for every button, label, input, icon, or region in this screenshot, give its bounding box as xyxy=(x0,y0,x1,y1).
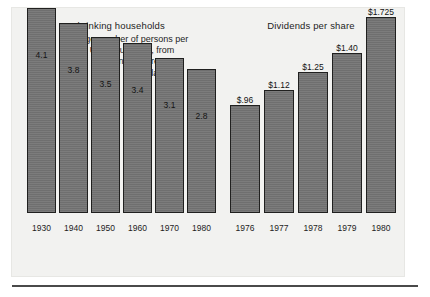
tick-label-households-5: 1980 xyxy=(182,223,221,233)
bar-households-4 xyxy=(155,58,184,213)
chart-dividends-per-share: Dividends per share $.96 1976 $1.12 1977… xyxy=(218,8,404,276)
bar-value-dividends-2: $1.25 xyxy=(293,62,333,72)
bar-households-0 xyxy=(27,8,56,213)
bar-value-households-5: 2.8 xyxy=(187,111,216,121)
bar-value-households-1: 3.8 xyxy=(59,65,88,75)
bar-value-dividends-0: $.96 xyxy=(225,95,265,105)
bar-households-5 xyxy=(187,69,216,213)
bar-dividends-3 xyxy=(332,53,362,213)
bar-value-households-3: 3.4 xyxy=(123,85,152,95)
chart-shrinking-households: Shrinking households Average number of p… xyxy=(20,8,216,276)
plot-area-dividends: $.96 1976 $1.12 1977 $1.25 1978 $1.40 19… xyxy=(218,8,404,255)
bar-value-dividends-4: $1.725 xyxy=(359,7,403,17)
bar-households-1 xyxy=(59,23,88,213)
bottom-rule-divider xyxy=(12,285,418,287)
bar-value-households-4: 3.1 xyxy=(155,100,184,110)
bar-dividends-0 xyxy=(230,105,260,213)
bar-dividends-4 xyxy=(366,17,396,213)
bar-households-2 xyxy=(91,37,120,213)
figure-panel: Shrinking households Average number of p… xyxy=(12,8,404,276)
bar-households-3 xyxy=(123,43,152,213)
bar-dividends-2 xyxy=(298,72,328,213)
bar-value-dividends-1: $1.12 xyxy=(259,80,299,90)
bar-value-households-2: 3.5 xyxy=(91,79,120,89)
plot-area-households: 4.1 1930 3.8 1940 3.5 1950 3.4 1960 3.1 … xyxy=(20,8,216,255)
bar-dividends-1 xyxy=(264,90,294,213)
tick-label-dividends-4: 1980 xyxy=(361,223,401,233)
bar-value-dividends-3: $1.40 xyxy=(327,43,367,53)
bar-value-households-0: 4.1 xyxy=(27,50,56,60)
